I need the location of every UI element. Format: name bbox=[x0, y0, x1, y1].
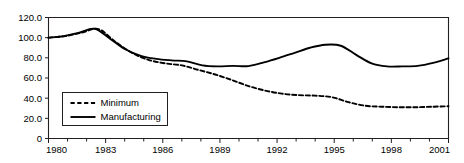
y-axis-tick-labels: 020.040.060.080.0100.0120.0 bbox=[18, 12, 42, 144]
y-axis-label-80.0: 80.0 bbox=[24, 52, 43, 63]
legend-label-minimum: Minimum bbox=[101, 97, 140, 108]
x-axis-label-1995: 1995 bbox=[324, 144, 345, 155]
chart-legend: MinimumManufacturing bbox=[63, 93, 168, 126]
x-axis-label-1998: 1998 bbox=[381, 144, 402, 155]
chart-canvas: 020.040.060.080.0100.0120.0 198019831986… bbox=[0, 0, 464, 163]
y-axis-label-0: 0 bbox=[37, 133, 42, 144]
x-axis-label-1986: 1986 bbox=[152, 144, 173, 155]
legend-label-manufacturing: Manufacturing bbox=[101, 111, 161, 122]
x-axis-label-1980: 1980 bbox=[46, 144, 67, 155]
series-line-manufacturing bbox=[49, 29, 449, 67]
line-chart: 020.040.060.080.0100.0120.0 198019831986… bbox=[0, 0, 464, 163]
y-axis-label-20.0: 20.0 bbox=[24, 113, 43, 124]
y-axis-label-120.0: 120.0 bbox=[18, 12, 42, 23]
x-axis-ticks bbox=[49, 139, 449, 144]
y-axis-label-100.0: 100.0 bbox=[18, 32, 42, 43]
x-axis-label-1983: 1983 bbox=[95, 144, 116, 155]
y-axis-label-60.0: 60.0 bbox=[24, 72, 43, 83]
x-axis-tick-labels: 19801983198619891992199519982001 bbox=[46, 144, 450, 155]
x-axis-label-1989: 1989 bbox=[209, 144, 230, 155]
x-axis-label-2001: 2001 bbox=[429, 144, 450, 155]
y-axis-label-40.0: 40.0 bbox=[24, 93, 43, 104]
x-axis-label-1992: 1992 bbox=[267, 144, 288, 155]
